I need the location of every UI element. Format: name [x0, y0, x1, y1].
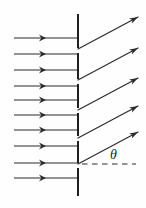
theta-angle-label: θ [110, 148, 117, 162]
figure-canvas [0, 0, 146, 208]
diffracted-ray-line [78, 78, 138, 110]
diffracted-ray-arrowhead [129, 17, 138, 24]
diffracted-ray-arrowhead [129, 106, 138, 113]
diffracted-ray-line [78, 48, 138, 80]
diffraction-grating-figure: θ [0, 0, 146, 208]
diffracted-ray-line [78, 132, 138, 164]
diffracted-ray-arrowhead [129, 132, 138, 139]
diffracted-ray-arrowhead [129, 78, 138, 85]
diffracted-ray-line [78, 17, 138, 49]
outgoing-rays-group [78, 17, 138, 164]
diffracted-ray-line [78, 106, 138, 138]
diffracted-ray-arrowhead [129, 48, 138, 55]
incoming-rays-group [14, 35, 78, 182]
